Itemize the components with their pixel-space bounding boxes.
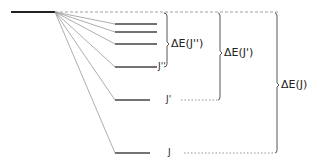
- bracket-j-double-prime: [164, 13, 169, 67]
- energy-level-diagram: [0, 0, 328, 163]
- delta-e-j-label: ΔE(J): [281, 79, 307, 90]
- level-label-j-prime: J': [166, 95, 171, 104]
- fan-lines: [55, 12, 115, 153]
- bracket-j: [275, 13, 279, 153]
- delta-e-j-double-prime-label: ΔE(J''): [171, 38, 203, 49]
- level-label-j-double-prime: J'': [158, 62, 166, 71]
- bracket-j-prime: [218, 13, 222, 100]
- level-lines: [115, 24, 157, 153]
- delta-e-j-prime-label: ΔE(J'): [224, 47, 253, 58]
- level-label-j: J: [168, 148, 171, 157]
